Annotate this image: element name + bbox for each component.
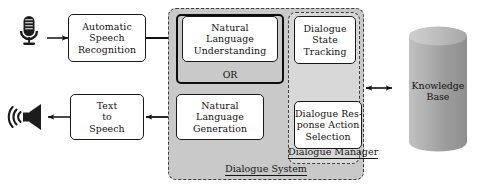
- dras-line-3: Selection: [295, 131, 361, 142]
- tts-line-2: to: [73, 111, 141, 122]
- tts-line-1: Text: [73, 100, 141, 111]
- asr-node[interactable]: Automatic Speech Recognition: [68, 14, 146, 62]
- nlg-line-1: Natural: [179, 100, 261, 111]
- asr-line-1: Automatic: [71, 21, 143, 32]
- asr-line-2: Speech: [71, 32, 143, 43]
- dst-line-2: State: [297, 34, 353, 45]
- microphone-icon: [21, 16, 37, 45]
- nlg-node[interactable]: Natural Language Generation: [176, 94, 264, 140]
- knowledge-base-label: Knowledge Base: [409, 80, 467, 103]
- speaker-icon: [9, 104, 41, 130]
- dst-line-3: Tracking: [297, 46, 353, 57]
- dras-line-1: Dialogue Res-: [295, 108, 361, 119]
- nlu-line-2: Language: [185, 33, 275, 44]
- dialogue-system-diagram: OR: [0, 0, 485, 189]
- tts-line-3: Speech: [73, 123, 141, 134]
- dialogue-system-label: Dialogue System: [168, 163, 364, 174]
- dst-line-1: Dialogue: [297, 23, 353, 34]
- nlg-line-2: Language: [179, 111, 261, 122]
- dras-line-2: ponse Action: [295, 119, 361, 130]
- nlg-line-3: Generation: [179, 123, 261, 134]
- tts-node[interactable]: Text to Speech: [70, 94, 144, 140]
- nlu-node[interactable]: Natural Language Understanding: [182, 16, 278, 62]
- dras-node[interactable]: Dialogue Res- ponse Action Selection: [294, 101, 362, 149]
- kb-line-2: Base: [409, 91, 467, 102]
- dst-node[interactable]: Dialogue State Tracking: [294, 16, 356, 64]
- asr-line-3: Recognition: [71, 44, 143, 55]
- or-label: OR: [176, 69, 284, 80]
- nlu-line-1: Natural: [185, 22, 275, 33]
- nlu-line-3: Understanding: [185, 45, 275, 56]
- kb-line-1: Knowledge: [409, 80, 467, 91]
